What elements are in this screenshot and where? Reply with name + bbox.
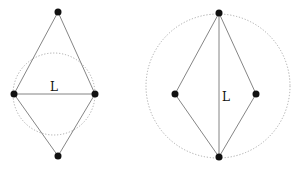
node [216,154,223,161]
left-diagram: L [11,9,99,160]
right-diagram: L [146,10,290,161]
node [11,91,18,98]
left-length-label: L [50,80,58,94]
right-nodes [172,10,260,161]
right-dotted-circle [146,14,290,158]
node [92,91,99,98]
node [55,153,62,160]
right-edges [175,13,256,157]
node [216,10,223,17]
node [172,91,179,98]
node [253,91,260,98]
diagram-canvas: L L [0,0,300,170]
node [55,9,62,16]
right-length-label: L [222,90,230,104]
